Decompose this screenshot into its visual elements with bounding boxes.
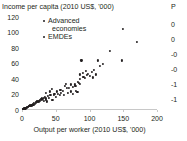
plot-area [22, 17, 157, 110]
figure-root: Income per capita (2010 US$, '000) 02040… [0, 0, 187, 141]
data-point [84, 77, 86, 79]
data-point [80, 59, 82, 61]
data-point [51, 88, 53, 90]
data-point [55, 96, 57, 98]
legend-label-advanced-economies-line1: Advanced [48, 17, 80, 25]
data-point [121, 59, 123, 61]
data-point [63, 94, 65, 96]
adjacent-panel-tick-label: -1 [171, 81, 177, 88]
data-point [49, 94, 51, 96]
y-tick-label: 60 [0, 60, 19, 67]
data-point [102, 63, 104, 65]
legend-label-advanced-economies-line2: economies [52, 25, 86, 33]
y-tick-label: 80 [0, 45, 19, 52]
data-point [136, 41, 138, 43]
data-point [99, 65, 101, 67]
data-point [79, 73, 81, 75]
data-point [95, 73, 97, 75]
adjacent-chart-panel-cropped: P 00-0-0-1-1 [162, 0, 187, 141]
x-axis-title: Output per worker (2010 US$, '000) [22, 126, 157, 134]
legend-marker-dot-icon [43, 36, 45, 38]
data-point [65, 83, 67, 85]
x-tick-mark [56, 110, 57, 112]
data-point [90, 71, 92, 73]
data-point [109, 50, 111, 52]
legend-label-emdes: EMDEs [48, 33, 72, 41]
scatter-chart-panel: Income per capita (2010 US$, '000) 02040… [0, 0, 162, 141]
data-point [76, 91, 78, 93]
data-point [68, 87, 70, 89]
data-point [93, 69, 95, 71]
x-tick-mark [123, 110, 124, 112]
x-tick-mark [157, 110, 158, 112]
x-tick-label: 50 [52, 115, 60, 122]
legend-marker-dot-icon [43, 20, 45, 22]
data-point [45, 92, 47, 94]
data-point [51, 99, 53, 101]
adjacent-panel-tick-label: 0 [171, 21, 175, 28]
adjacent-panel-tick-label: 0 [171, 36, 175, 43]
y-tick-label: 40 [0, 76, 19, 83]
data-point [122, 28, 124, 30]
x-tick-label: 100 [84, 115, 96, 122]
x-tick-mark [90, 110, 91, 112]
x-tick-mark [22, 110, 23, 112]
data-point [97, 59, 99, 61]
x-tick-label: 0 [20, 115, 24, 122]
adjacent-panel-title-fragment: P [171, 3, 176, 11]
data-point [79, 78, 81, 80]
y-tick-label: 100 [0, 29, 19, 36]
data-point [49, 90, 51, 92]
y-tick-label: 0 [0, 107, 19, 114]
data-point [79, 83, 81, 85]
data-point [67, 92, 69, 94]
data-point [72, 93, 74, 95]
data-point [92, 76, 94, 78]
data-point [88, 75, 90, 77]
chart-title: Income per capita (2010 US$, '000) [2, 3, 114, 11]
data-point [82, 72, 84, 74]
adjacent-panel-tick-label: -0 [171, 66, 177, 73]
adjacent-panel-tick-label: -1 [171, 96, 177, 103]
x-tick-label: 150 [117, 115, 129, 122]
data-point [46, 100, 48, 102]
y-tick-label: 20 [0, 91, 19, 98]
adjacent-panel-tick-label: -0 [171, 51, 177, 58]
data-point [48, 97, 50, 99]
y-tick-label: 120 [0, 14, 19, 21]
